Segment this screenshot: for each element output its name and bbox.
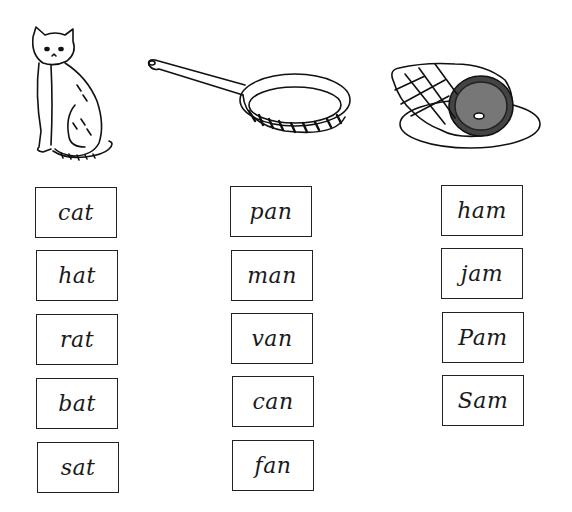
word-label: Sam [458,388,509,413]
ham-icon [385,60,555,160]
word-label: pan [250,199,293,224]
word-label: rat [60,327,94,352]
word-label: Pam [458,325,507,350]
word-card[interactable]: man [231,250,313,301]
word-card[interactable]: rat [36,314,118,365]
word-card[interactable]: cat [35,187,117,238]
word-card[interactable]: sat [37,442,119,493]
word-card[interactable]: fan [232,440,314,491]
word-label: fan [255,453,292,478]
word-label: jam [461,261,503,286]
word-label: hat [58,263,96,288]
word-label: ham [457,198,507,223]
word-label: sat [61,455,96,480]
word-card[interactable]: bat [36,378,118,429]
word-card[interactable]: Pam [442,312,524,363]
word-label: bat [58,391,96,416]
word-label: cat [58,200,94,225]
word-card[interactable]: can [232,376,314,427]
word-card[interactable]: jam [441,248,523,299]
word-card[interactable]: Sam [442,375,524,426]
word-card[interactable]: pan [230,186,312,237]
word-label: man [247,263,297,288]
word-card[interactable]: ham [441,185,523,236]
word-label: can [252,389,293,414]
word-label: van [251,326,292,351]
word-card[interactable]: hat [36,250,118,301]
cat-icon [25,25,125,165]
word-card[interactable]: van [231,313,313,364]
frying-pan-icon [145,55,355,140]
